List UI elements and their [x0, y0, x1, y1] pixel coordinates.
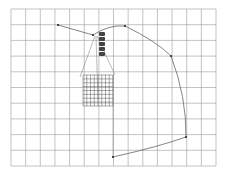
- bezier-curve[interactable]: [58, 25, 186, 157]
- tool-button[interactable]: [99, 47, 105, 51]
- anchor-handle[interactable]: [57, 24, 59, 26]
- anchor-points[interactable]: [57, 24, 187, 158]
- anchor-handle[interactable]: [124, 25, 126, 27]
- tool-button[interactable]: [99, 32, 105, 36]
- tool-button[interactable]: [99, 42, 105, 46]
- floating-toolbar: [99, 32, 105, 56]
- anchor-handle[interactable]: [112, 156, 114, 158]
- grid: [11, 9, 216, 166]
- tool-button[interactable]: [99, 52, 105, 56]
- drawing-canvas[interactable]: [0, 0, 229, 173]
- guide-lines: [80, 36, 115, 157]
- anchor-handle[interactable]: [92, 34, 94, 36]
- anchor-handle[interactable]: [170, 55, 172, 57]
- anchor-handle[interactable]: [185, 136, 187, 138]
- tool-button[interactable]: [99, 37, 105, 41]
- fine-grid: [83, 75, 113, 106]
